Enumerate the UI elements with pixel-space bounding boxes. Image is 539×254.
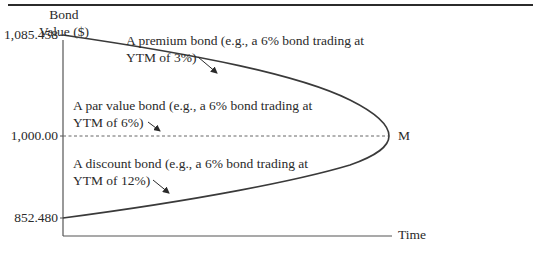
discount-annotation-line2: YTM of 12%)	[73, 172, 150, 189]
y-tick-label-par: 1,000.00	[0, 128, 58, 144]
y-tick-label-discount: 852.480	[0, 210, 58, 226]
par-arrow-icon	[148, 122, 160, 131]
discount-annotation-line1: A discount bond (e.g., a 6% bond trading…	[73, 155, 308, 172]
discount-arrow-icon	[153, 180, 169, 193]
par-annotation-line2: YTM of 6%)	[73, 114, 144, 131]
y-axis-label-line1: Bond	[44, 7, 84, 23]
premium-annotation-line2: YTM of 3%)	[126, 49, 197, 66]
par-annotation-line1: A par value bond (e.g., a 6% bond tradin…	[73, 97, 312, 114]
maturity-label: M	[398, 128, 410, 144]
y-tick-label-premium: 1,085.458	[0, 27, 58, 43]
premium-annotation-line1: A premium bond (e.g., a 6% bond trading …	[126, 32, 364, 49]
x-axis-label: Time	[398, 227, 426, 243]
